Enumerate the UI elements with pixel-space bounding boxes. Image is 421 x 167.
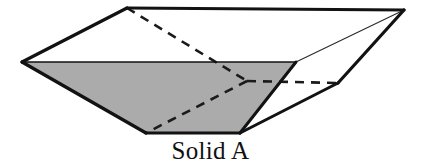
top-back-edge <box>127 8 404 10</box>
figure-caption: Solid A <box>0 136 421 165</box>
solid-a-figure: Solid A <box>0 0 421 167</box>
